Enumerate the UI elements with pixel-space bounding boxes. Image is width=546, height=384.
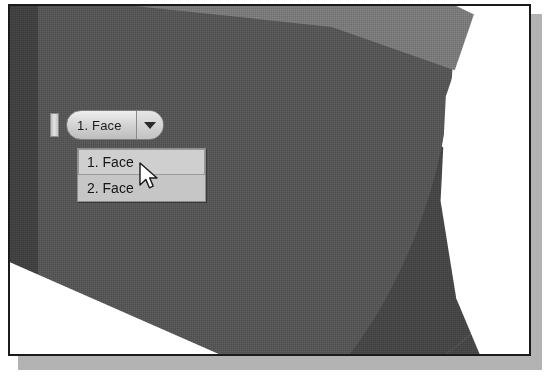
face-select-combobox[interactable]: 1. Face [66,110,164,140]
selection-grip[interactable] [50,113,59,137]
cad-viewport[interactable]: 1. Face 1. Face 2. Face [10,6,529,354]
face-select-dropdown-list[interactable]: 1. Face 2. Face [77,148,206,202]
figure-root: 1. Face 1. Face 2. Face [0,0,546,384]
dropdown-option-1[interactable]: 1. Face [78,149,205,175]
screenshot-frame: 1. Face 1. Face 2. Face [8,4,531,356]
dropdown-option-2-label: 2. Face [87,180,134,196]
dropdown-option-2[interactable]: 2. Face [78,175,205,201]
face-select-toggle[interactable] [136,111,163,139]
chevron-down-icon [144,122,156,129]
dropdown-option-1-label: 1. Face [87,154,134,170]
face-select-value: 1. Face [67,118,136,133]
